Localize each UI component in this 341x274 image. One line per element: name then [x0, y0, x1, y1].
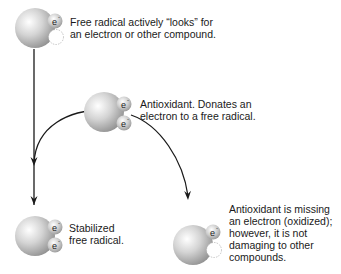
svg-text:e: e [121, 100, 126, 110]
label-antioxidant: Antioxidant. Donates an electron to a fr… [140, 98, 256, 122]
missing-electron-slot [49, 30, 64, 45]
label-line: an electron (oxidized); [229, 215, 332, 227]
label-line: Free radical actively “looks” for [70, 16, 216, 28]
svg-text:e: e [210, 228, 215, 238]
svg-text:-: - [58, 14, 60, 20]
svg-text:-: - [216, 225, 218, 231]
label-line: damaging to other [229, 239, 332, 251]
label-line: electron to a free radical. [140, 110, 256, 122]
label-line: compounds. [229, 251, 332, 263]
label-line: Antioxidant. Donates an [140, 98, 256, 110]
label-stabilized: Stabilized free radical. [69, 222, 124, 246]
svg-text:-: - [127, 116, 129, 122]
svg-text:-: - [58, 220, 60, 226]
molecule-antioxidant: e - e - [84, 92, 132, 132]
label-line: Antioxidant is missing [229, 203, 332, 215]
molecule-oxidized-antioxidant: e - [173, 225, 222, 266]
missing-electron-slot [207, 243, 222, 258]
molecule-free-radical: e - [15, 8, 64, 48]
molecule-stabilized: e - e - [15, 216, 63, 256]
arrow-antioxidant-to-oxidized [131, 115, 188, 196]
svg-text:-: - [58, 238, 60, 244]
svg-text:e: e [52, 241, 57, 251]
label-line: an electron or other compound. [70, 28, 216, 40]
svg-text:-: - [127, 97, 129, 103]
label-line: free radical. [69, 234, 124, 246]
svg-text:e: e [121, 119, 126, 129]
label-line: however, it is not [229, 227, 332, 239]
svg-text:e: e [52, 223, 57, 233]
label-free-radical: Free radical actively “looks” for an ele… [70, 16, 216, 40]
label-oxidized-antioxidant: Antioxidant is missing an electron (oxid… [229, 203, 332, 263]
svg-text:e: e [52, 17, 57, 27]
label-line: Stabilized [69, 222, 124, 234]
